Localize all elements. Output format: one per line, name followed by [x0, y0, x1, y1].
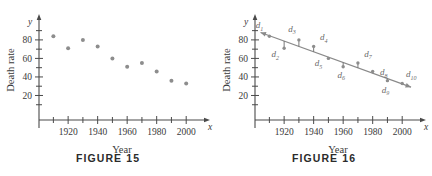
data-point: [356, 61, 359, 64]
data-point: [51, 34, 55, 38]
data-point: [282, 47, 285, 50]
x-tick-label: 1980: [363, 127, 382, 137]
deviation-label: d7: [364, 49, 373, 60]
data-point: [386, 79, 389, 82]
data-point: [125, 65, 129, 69]
y-axis-variable: y: [27, 17, 33, 27]
deviation-label: d4: [320, 32, 328, 43]
figure-pair: 1920194019601980200020406080xyYearDeath …: [0, 0, 432, 176]
data-point: [81, 38, 85, 42]
deviation-label: d8: [380, 67, 388, 78]
x-tick-label: 1940: [88, 127, 107, 137]
y-axis-title: Death rate: [5, 48, 16, 92]
data-point: [341, 65, 344, 68]
data-point: [184, 81, 188, 85]
figure-16-panel: 1920194019601980200020406080xyYearDeath …: [216, 0, 432, 176]
figure-15-caption: FIGURE 15: [0, 152, 216, 164]
y-tick-label: 60: [239, 54, 249, 64]
figure-15-plot: 1920194019601980200020406080xyYearDeath …: [0, 0, 216, 176]
data-point: [312, 45, 315, 48]
x-tick-label: 2000: [177, 127, 196, 137]
data-point: [169, 79, 173, 83]
y-tick-label: 60: [23, 54, 33, 64]
x-tick-label: 1960: [118, 127, 137, 137]
x-tick-label: 2000: [393, 127, 412, 137]
data-point: [371, 70, 374, 73]
deviation-label: d2: [271, 49, 279, 60]
y-tick-label: 20: [23, 91, 33, 101]
figure-16-caption: FIGURE 16: [216, 152, 432, 164]
y-tick-label: 40: [23, 72, 33, 82]
figure-15-panel: 1920194019601980200020406080xyYearDeath …: [0, 0, 216, 176]
y-tick-label: 80: [23, 35, 33, 45]
x-tick-label: 1920: [59, 127, 78, 137]
x-axis-variable: x: [423, 122, 429, 132]
data-point: [110, 56, 114, 60]
data-point: [297, 38, 300, 41]
deviation-label: d6: [337, 70, 345, 81]
deviation-label: d9: [382, 85, 390, 96]
figure-16-plot: 1920194019601980200020406080xyYearDeath …: [216, 0, 432, 176]
deviation-label: d1: [256, 20, 264, 31]
data-point: [400, 82, 403, 85]
data-point: [155, 69, 159, 73]
y-tick-label: 80: [239, 35, 249, 45]
y-axis-variable: y: [243, 17, 249, 27]
deviation-label: d3: [288, 24, 296, 35]
x-tick-label: 1940: [304, 127, 323, 137]
deviation-label: d10: [406, 69, 417, 80]
data-point: [327, 57, 330, 60]
y-tick-label: 40: [239, 72, 249, 82]
data-point: [140, 61, 144, 65]
deviation-label: d5: [315, 58, 323, 69]
x-axis-variable: x: [207, 122, 213, 132]
x-tick-label: 1960: [334, 127, 353, 137]
data-point: [268, 34, 271, 37]
data-point: [66, 46, 70, 50]
data-point: [96, 44, 100, 48]
y-axis-title: Death rate: [221, 48, 232, 92]
x-tick-label: 1920: [275, 127, 294, 137]
x-tick-label: 1980: [147, 127, 166, 137]
y-tick-label: 20: [239, 91, 249, 101]
